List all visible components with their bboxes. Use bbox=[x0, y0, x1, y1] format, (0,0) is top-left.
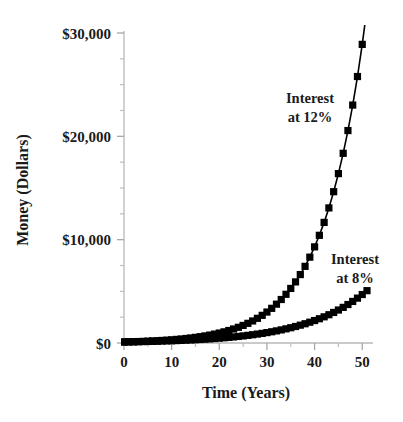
annotation-8-line1: Interest bbox=[331, 251, 379, 267]
y-tick-label: $0 bbox=[96, 336, 111, 352]
x-axis-title: Time (Years) bbox=[202, 384, 290, 402]
chart-canvas: $0$10,000$20,000$30,00001020304050 Money… bbox=[0, 0, 403, 422]
data-point-marker bbox=[363, 287, 370, 294]
data-point-marker bbox=[292, 278, 299, 285]
x-tick-label: 40 bbox=[307, 354, 322, 370]
x-tick-label: 50 bbox=[355, 354, 370, 370]
data-point-marker bbox=[359, 41, 366, 48]
x-tick-label: 10 bbox=[164, 354, 179, 370]
data-point-marker bbox=[287, 285, 294, 292]
x-tick-label: 30 bbox=[259, 354, 274, 370]
annotation-12-line2: at 12% bbox=[288, 109, 333, 125]
data-point-marker bbox=[316, 232, 323, 239]
y-tick-label: $10,000 bbox=[62, 232, 111, 248]
annotation-8-line2: at 8% bbox=[336, 270, 373, 286]
data-point-marker bbox=[330, 188, 337, 195]
data-point-marker bbox=[349, 101, 356, 108]
series-8pct bbox=[120, 287, 370, 346]
data-point-marker bbox=[325, 204, 332, 211]
data-point-marker bbox=[297, 271, 304, 278]
data-point-marker bbox=[344, 127, 351, 134]
compound-interest-chart: $0$10,000$20,000$30,00001020304050 Money… bbox=[0, 0, 403, 422]
x-tick-label: 20 bbox=[212, 354, 227, 370]
annotation-12-line1: Interest bbox=[286, 90, 334, 106]
data-point-marker bbox=[306, 254, 313, 261]
y-axis-title: Money (Dollars) bbox=[14, 134, 32, 246]
data-point-marker bbox=[335, 170, 342, 177]
data-point-marker bbox=[354, 73, 361, 80]
annotation-interest-8: Interest at 8% bbox=[331, 251, 379, 286]
series-line bbox=[124, 8, 367, 342]
data-point-marker bbox=[301, 263, 308, 270]
y-tick-label: $20,000 bbox=[62, 129, 111, 145]
series-12pct bbox=[120, 5, 370, 346]
annotation-interest-12: Interest at 12% bbox=[286, 90, 334, 125]
data-point-marker bbox=[363, 5, 370, 12]
y-tick-label: $30,000 bbox=[62, 26, 111, 42]
data-point-marker bbox=[311, 243, 318, 250]
x-tick-label: 0 bbox=[120, 354, 128, 370]
data-point-marker bbox=[340, 150, 347, 157]
data-point-marker bbox=[321, 219, 328, 226]
data-series bbox=[120, 5, 370, 346]
